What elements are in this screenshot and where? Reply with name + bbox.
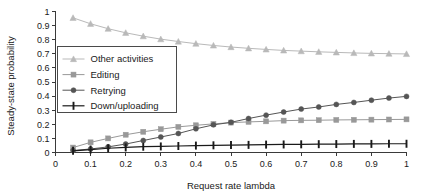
y-tick-label: 0.5 <box>37 77 50 87</box>
y-axis-title-group: Steady-state probability <box>5 36 16 136</box>
steady-state-probability-line-chart: Steady-state probability 00.10.20.30.40.… <box>0 0 423 193</box>
data-point-marker <box>281 110 286 115</box>
chart-container: Steady-state probability 00.10.20.30.40.… <box>0 0 423 193</box>
x-axis-title: Request rate lambda <box>187 180 276 191</box>
x-tick-label: 0.9 <box>365 159 378 169</box>
y-tick-label: 0.1 <box>37 134 50 144</box>
y-tick-label: 0 <box>44 148 49 158</box>
data-point-marker <box>229 120 234 125</box>
data-point-marker <box>88 140 93 145</box>
x-tick-label: 0.4 <box>190 159 203 169</box>
data-point-marker <box>264 113 269 118</box>
data-point-marker <box>404 117 409 122</box>
x-tick-label: 0.6 <box>260 159 273 169</box>
legend-label: Other activities <box>91 53 154 64</box>
data-point-marker <box>246 116 251 121</box>
x-tick-label: 0.3 <box>155 159 168 169</box>
y-tick-label: 0.7 <box>37 49 50 59</box>
data-point-marker <box>71 88 76 93</box>
data-point-marker <box>369 98 374 103</box>
data-point-marker <box>70 15 76 21</box>
data-point-marker <box>193 126 198 131</box>
x-tick-label: 0.5 <box>225 159 238 169</box>
data-point-marker <box>369 117 374 122</box>
data-point-marker <box>351 100 356 105</box>
data-point-marker <box>404 94 409 99</box>
x-tick-label: 0.1 <box>84 159 97 169</box>
chart-legend: Other activitiesEditingRetryingDown/uplo… <box>58 47 177 113</box>
x-tick-label: 0 <box>53 159 58 169</box>
data-point-marker <box>211 122 216 127</box>
data-point-marker <box>316 118 321 123</box>
data-point-marker <box>106 136 111 141</box>
data-point-marker <box>141 129 146 134</box>
x-tick-label: 0.8 <box>330 159 343 169</box>
legend-label: Retrying <box>91 85 126 96</box>
data-point-marker <box>264 119 269 124</box>
y-axis-title: Steady-state probability <box>5 36 16 136</box>
y-axis-ticks: 00.10.20.30.40.50.60.70.80.91 <box>37 7 56 158</box>
data-point-marker <box>386 96 391 101</box>
data-point-marker <box>351 117 356 122</box>
x-axis-ticks: 00.10.20.30.40.50.60.70.80.91 <box>53 153 409 169</box>
data-point-marker <box>299 118 304 123</box>
data-point-marker <box>316 104 321 109</box>
y-tick-label: 0.4 <box>37 91 50 101</box>
data-point-marker <box>334 117 339 122</box>
y-tick-label: 0.6 <box>37 63 50 73</box>
y-tick-label: 0.2 <box>37 120 50 130</box>
y-tick-label: 0.8 <box>37 35 50 45</box>
legend-label: Down/uploading <box>91 100 159 111</box>
y-tick-label: 0.9 <box>37 21 50 31</box>
x-tick-label: 0.2 <box>119 159 132 169</box>
data-point-marker <box>299 107 304 112</box>
data-point-marker <box>71 72 76 77</box>
y-tick-label: 1 <box>44 7 49 17</box>
legend-label: Editing <box>91 69 120 80</box>
data-point-marker <box>158 127 163 132</box>
x-tick-label: 1 <box>404 159 409 169</box>
x-tick-label: 0.7 <box>295 159 308 169</box>
data-point-marker <box>158 134 163 139</box>
data-point-marker <box>176 131 181 136</box>
data-point-marker <box>141 138 146 143</box>
data-point-marker <box>281 118 286 123</box>
data-point-marker <box>123 132 128 137</box>
data-point-marker <box>386 117 391 122</box>
y-tick-label: 0.3 <box>37 106 50 116</box>
data-point-marker <box>176 124 181 129</box>
data-point-marker <box>334 102 339 107</box>
